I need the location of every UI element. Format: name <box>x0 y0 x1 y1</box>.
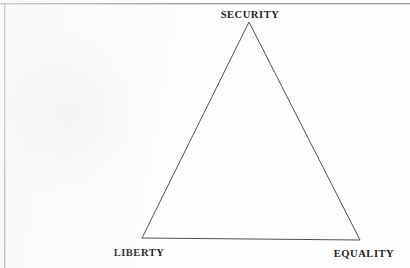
triangle-outline <box>142 22 360 240</box>
vertex-label-liberty: LIBERTY <box>114 248 165 259</box>
figure-canvas: SECURITY LIBERTY EQUALITY <box>0 0 410 268</box>
triangle-diagram <box>0 0 410 268</box>
vertex-label-equality: EQUALITY <box>334 249 394 260</box>
vertex-label-security: SECURITY <box>221 10 280 21</box>
